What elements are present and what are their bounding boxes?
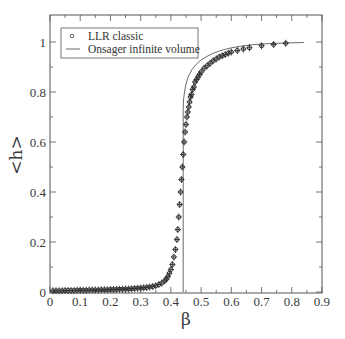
y-tick-label: 0 xyxy=(40,285,47,300)
x-tick-label: 0.5 xyxy=(193,294,209,309)
chart: 00.10.20.30.40.50.60.70.80.900.20.40.60.… xyxy=(0,0,345,339)
x-tick-label: 0.3 xyxy=(133,294,149,309)
x-tick-label: 0.7 xyxy=(253,294,270,309)
x-tick-label: 0.1 xyxy=(72,294,88,309)
x-tick-label: 0.2 xyxy=(102,294,118,309)
x-tick-label: 0.6 xyxy=(223,294,240,309)
x-axis-label: β xyxy=(181,309,191,329)
y-tick-label: 0.2 xyxy=(30,235,46,250)
y-axis-label: <h> xyxy=(6,135,26,174)
x-tick-label: 0.9 xyxy=(314,294,330,309)
y-tick-label: 0.6 xyxy=(30,135,47,150)
legend-label-llr: LLR classic xyxy=(88,30,143,42)
y-tick-label: 0.4 xyxy=(30,185,47,200)
x-tick-label: 0 xyxy=(47,294,54,309)
y-tick-label: 1 xyxy=(40,35,47,50)
legend-label-onsager: Onsager infinite volume xyxy=(88,43,200,56)
x-tick-label: 0.4 xyxy=(163,294,180,309)
legend: LLR classic Onsager infinite volume xyxy=(61,28,200,58)
llr-data-points xyxy=(50,40,289,295)
x-tick-label: 0.8 xyxy=(284,294,300,309)
tick-labels: 00.10.20.30.40.50.60.70.80.900.20.40.60.… xyxy=(30,35,330,310)
y-tick-label: 0.8 xyxy=(30,85,46,100)
onsager-curve xyxy=(183,43,304,293)
